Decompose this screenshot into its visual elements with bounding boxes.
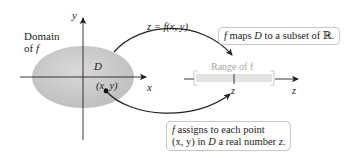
domain-label-var: f (36, 42, 39, 54)
callout-assigns: f assigns to each point (x, y) in D a re… (166, 121, 291, 151)
callout-maps: f maps D to a subset of ℝ. (218, 27, 340, 45)
domain-label-line1: Domain (24, 30, 59, 42)
domain-label: Domain of f (24, 30, 59, 54)
callout-maps-text1: maps (227, 30, 254, 41)
z-tick-label: z (231, 85, 235, 97)
callout-assigns-end: a real number (216, 136, 279, 147)
region-label: D (94, 60, 102, 72)
callout-assigns-D: D (208, 136, 216, 147)
mapping-label: z = f(x, y) (147, 21, 188, 33)
domain-label-prefix: of (24, 42, 36, 54)
y-axis-label: y (72, 9, 77, 21)
callout-assigns-period: . (283, 136, 286, 147)
point-label: (x, y) (96, 80, 118, 92)
range-label: Range of f (211, 61, 253, 73)
x-axis-label: x (147, 81, 152, 93)
callout-maps-text2: to a subset of ℝ. (262, 30, 334, 41)
callout-maps-D: D (254, 30, 262, 41)
z-axis-label: z (292, 85, 296, 97)
callout-assigns-xy: (x, y) (172, 136, 195, 147)
callout-assigns-line1: assigns to each point (175, 124, 265, 135)
callout-assigns-mid: in (195, 136, 208, 147)
